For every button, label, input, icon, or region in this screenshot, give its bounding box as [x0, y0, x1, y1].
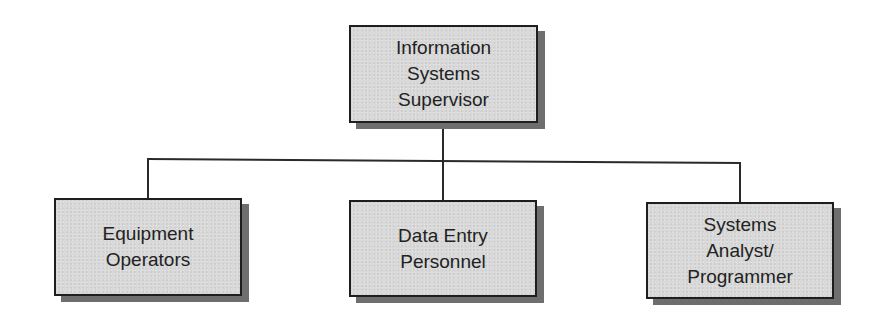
node-label: Information Systems Supervisor	[396, 35, 491, 113]
node-label: Systems Analyst/ Programmer	[687, 212, 793, 290]
node-systems-analyst-programmer: Systems Analyst/ Programmer	[646, 202, 834, 299]
node-information-systems-supervisor: Information Systems Supervisor	[349, 25, 538, 123]
node-label: Equipment Operators	[103, 221, 194, 273]
node-label: Data Entry Personnel	[398, 223, 488, 275]
node-equipment-operators: Equipment Operators	[54, 198, 242, 296]
node-data-entry-personnel: Data Entry Personnel	[349, 200, 537, 297]
